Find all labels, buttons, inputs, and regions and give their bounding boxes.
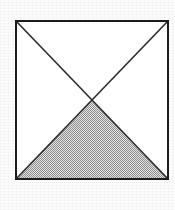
geometry-canvas	[0, 0, 175, 210]
geometry-figure: Square with both diagonals drawn and low…	[0, 0, 175, 210]
